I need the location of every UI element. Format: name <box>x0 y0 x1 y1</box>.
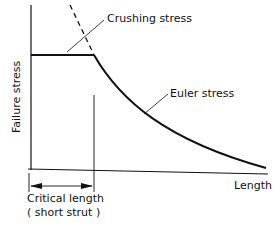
x-axis-label: Length <box>234 179 272 192</box>
crushing-leader <box>67 20 104 52</box>
critical-length-label: Critical length <box>27 192 104 205</box>
euler-leader <box>144 94 168 114</box>
short-strut-label: ( short strut ) <box>27 206 100 219</box>
arrowhead-left <box>30 183 42 189</box>
y-axis-label: Failure stress <box>10 60 23 133</box>
crushing-stress-label: Crushing stress <box>107 12 192 25</box>
euler-stress-curve <box>94 55 266 168</box>
x-axis <box>28 169 268 174</box>
strut-failure-diagram: Crushing stress Euler stress Failure str… <box>0 0 280 230</box>
euler-dashed-extension <box>70 5 94 55</box>
arrowhead-right <box>81 183 93 189</box>
euler-stress-label: Euler stress <box>170 87 235 100</box>
